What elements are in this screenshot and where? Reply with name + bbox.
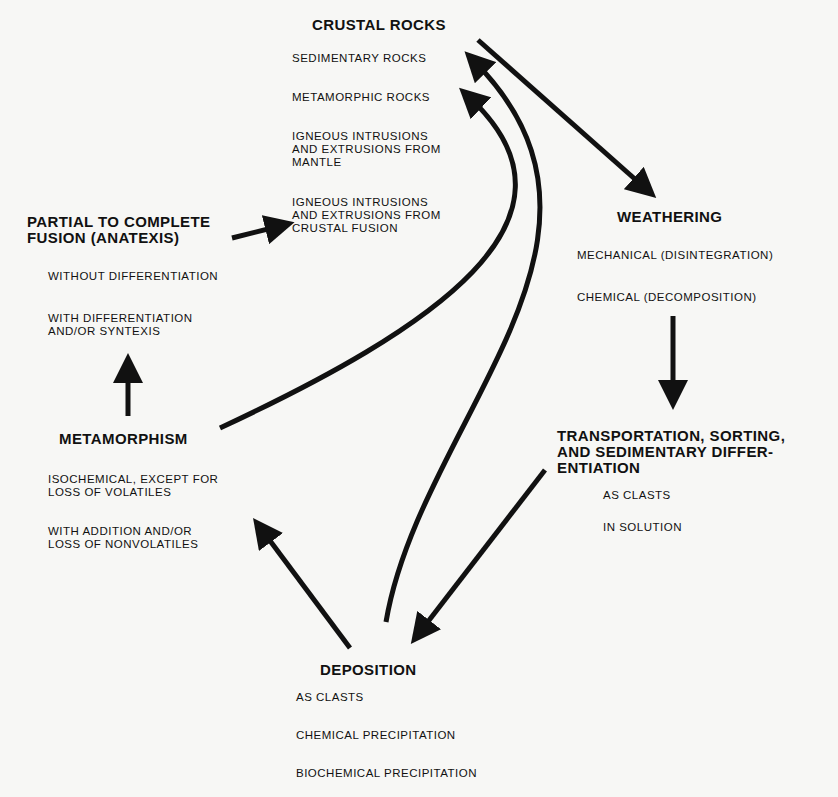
item-transport-clasts: AS CLASTS bbox=[603, 489, 671, 502]
item-isochemical: ISOCHEMICAL, EXCEPT FOR LOSS OF VOLATILE… bbox=[48, 473, 218, 499]
arrow-transport-to-deposition bbox=[420, 470, 545, 632]
arrow-deposition-to-metamorphism bbox=[262, 530, 350, 648]
item-sedimentary-rocks: SEDIMENTARY ROCKS bbox=[292, 52, 426, 65]
arrow-crustal-to-weathering bbox=[478, 40, 645, 188]
item-in-solution: IN SOLUTION bbox=[603, 521, 682, 534]
item-deposition-clasts: AS CLASTS bbox=[296, 691, 364, 704]
item-without-differentiation: WITHOUT DIFFERENTIATION bbox=[48, 270, 218, 283]
item-igneous-mantle: IGNEOUS INTRUSIONS AND EXTRUSIONS FROM M… bbox=[292, 130, 441, 169]
item-metamorphic-rocks: METAMORPHIC ROCKS bbox=[292, 91, 430, 104]
node-transportation-title: TRANSPORTATION, SORTING, AND SEDIMENTARY… bbox=[557, 428, 785, 476]
item-igneous-crustal-fusion: IGNEOUS INTRUSIONS AND EXTRUSIONS FROM C… bbox=[292, 196, 441, 235]
node-weathering-title: WEATHERING bbox=[617, 209, 722, 225]
item-chemical-precipitation: CHEMICAL PRECIPITATION bbox=[296, 729, 456, 742]
item-chemical: CHEMICAL (DECOMPOSITION) bbox=[577, 291, 757, 304]
node-fusion-title: PARTIAL TO COMPLETE FUSION (ANATEXIS) bbox=[27, 214, 210, 246]
item-mechanical: MECHANICAL (DISINTEGRATION) bbox=[577, 249, 773, 262]
node-deposition-title: DEPOSITION bbox=[320, 662, 417, 678]
node-metamorphism-title: METAMORPHISM bbox=[59, 431, 188, 447]
arrow-fusion-to-igneous bbox=[232, 226, 280, 238]
item-biochemical-precipitation: BIOCHEMICAL PRECIPITATION bbox=[296, 767, 477, 780]
item-with-differentiation: WITH DIFFERENTIATION AND/OR SYNTEXIS bbox=[48, 312, 193, 338]
item-addition-nonvolatiles: WITH ADDITION AND/OR LOSS OF NONVOLATILE… bbox=[48, 525, 198, 551]
node-crustal-rocks-title: CRUSTAL ROCKS bbox=[312, 17, 446, 33]
arrows-layer bbox=[0, 0, 838, 797]
